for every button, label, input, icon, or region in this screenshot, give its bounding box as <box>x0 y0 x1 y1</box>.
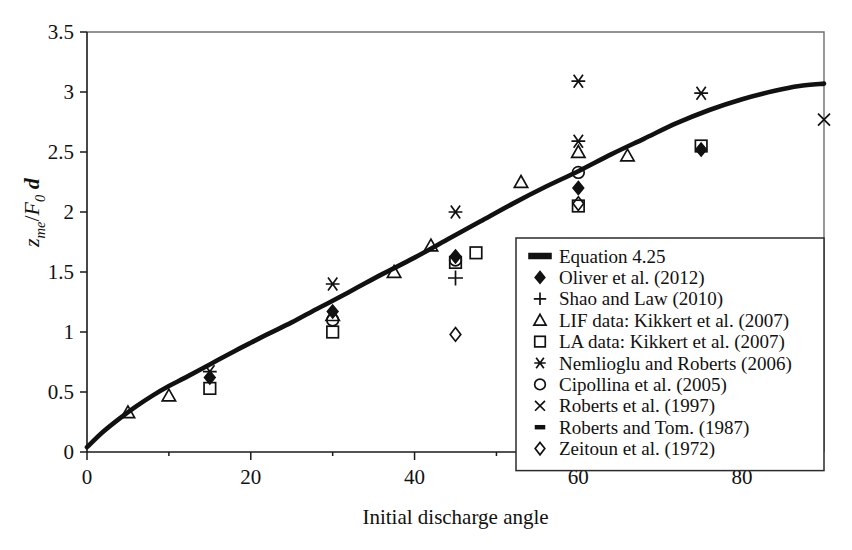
legend-label: LA data: Kikkert et al. (2007) <box>559 331 785 353</box>
y-tick-label: 1.5 <box>48 260 74 284</box>
legend-label: Roberts and Tom. (1987) <box>559 417 749 439</box>
legend-label: Equation 4.25 <box>559 246 666 267</box>
legend-label: Roberts et al. (1997) <box>559 395 715 417</box>
data-point-plus <box>448 271 463 286</box>
data-point-asterisk <box>694 87 708 100</box>
data-point-square <box>327 326 339 338</box>
data-point-triangle <box>514 176 527 188</box>
scatter-plot: 00.511.522.533.5020406080 Initial discha… <box>0 0 852 550</box>
data-point-asterisk <box>571 75 585 88</box>
y-tick-label: 0 <box>64 440 75 464</box>
x-axis-title: Initial discharge angle <box>362 505 548 529</box>
legend-label: Shao and Law (2010) <box>559 288 723 310</box>
y-tick-label: 3.5 <box>48 20 74 44</box>
x-tick-label: 20 <box>240 465 261 489</box>
legend-item[interactable]: Roberts et al. (1997) <box>535 395 715 417</box>
legend-item[interactable]: Roberts and Tom. (1987) <box>535 417 750 439</box>
data-point-diamond-open <box>573 197 584 211</box>
legend-item[interactable]: Cipollina et al. (2005) <box>535 374 727 396</box>
chart-figure: 00.511.522.533.5020406080 Initial discha… <box>0 0 852 550</box>
legend-item[interactable]: LA data: Kikkert et al. (2007) <box>535 331 785 353</box>
legend-item[interactable]: Nemlioglu and Roberts (2006) <box>534 353 791 375</box>
legend: Equation 4.25Oliver et al. (2012)Shao an… <box>516 238 824 471</box>
data-point-square <box>470 247 482 259</box>
data-point-diamond-filled <box>696 143 707 157</box>
y-tick-label: 0.5 <box>48 380 74 404</box>
data-point-asterisk <box>326 278 340 291</box>
y-tick-label: 2.5 <box>48 140 74 164</box>
legend-label: Nemlioglu and Roberts (2006) <box>559 353 792 375</box>
x-tick-label: 0 <box>82 465 93 489</box>
data-point-diamond-open <box>450 328 461 342</box>
legend-label: Cipollina et al. (2005) <box>559 374 727 396</box>
legend-item[interactable]: Zeitoun et al. (1972) <box>535 438 715 460</box>
legend-label: Zeitoun et al. (1972) <box>559 438 715 460</box>
y-tick-label: 2 <box>64 200 75 224</box>
x-tick-label: 40 <box>404 465 425 489</box>
legend-label: Oliver et al. (2012) <box>559 267 705 289</box>
legend-item[interactable]: Oliver et al. (2012) <box>535 267 705 289</box>
y-tick-label: 3 <box>64 80 75 104</box>
legend-item[interactable]: Shao and Law (2010) <box>534 288 723 310</box>
legend-item[interactable]: LIF data: Kikkert et al. (2007) <box>534 310 789 332</box>
data-point-asterisk <box>449 206 463 219</box>
x-axis-title-text: Initial discharge angle <box>362 505 548 529</box>
legend-label: LIF data: Kikkert et al. (2007) <box>559 310 789 332</box>
y-tick-label: 1 <box>64 320 75 344</box>
data-point-diamond-filled <box>573 181 584 195</box>
